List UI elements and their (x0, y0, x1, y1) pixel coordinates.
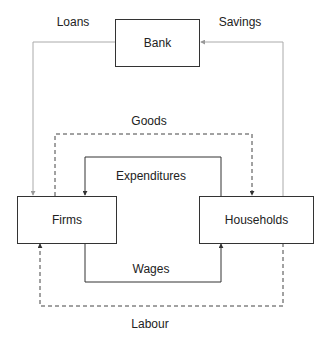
households-node: Households (199, 196, 314, 244)
labour-label: Labour (131, 317, 168, 331)
goods-label: Goods (131, 114, 166, 128)
loans-arrow (33, 42, 115, 195)
savings-label: Savings (219, 15, 262, 29)
savings-arrow (201, 42, 283, 196)
loans-label: Loans (57, 15, 90, 29)
bank-label: Bank (144, 36, 171, 50)
households-label: Households (225, 213, 288, 227)
firms-label: Firms (52, 213, 82, 227)
expenditures-label: Expenditures (116, 169, 186, 183)
wages-label: Wages (133, 262, 170, 276)
firms-node: Firms (17, 196, 117, 244)
bank-node: Bank (115, 19, 200, 67)
